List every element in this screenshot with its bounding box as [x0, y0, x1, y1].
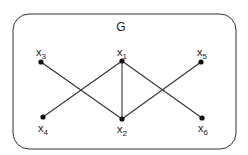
- graph-title: G: [116, 20, 125, 34]
- node-label-x3: x3: [36, 46, 47, 61]
- node-label-x2: x2: [117, 123, 128, 138]
- node-label-x6: x6: [198, 122, 209, 137]
- node-label-x4: x4: [38, 122, 49, 137]
- edge-x2-x5: [122, 62, 201, 119]
- node-label-x1: x1: [117, 46, 128, 61]
- node-x2: [119, 116, 124, 121]
- node-label-x5: x5: [197, 46, 208, 61]
- edge-x1-x4: [43, 61, 122, 117]
- node-x4: [40, 114, 45, 119]
- graph-diagram: G x1x2x3x4x5x6: [0, 0, 248, 155]
- edges: [41, 61, 202, 119]
- node-x6: [199, 115, 204, 120]
